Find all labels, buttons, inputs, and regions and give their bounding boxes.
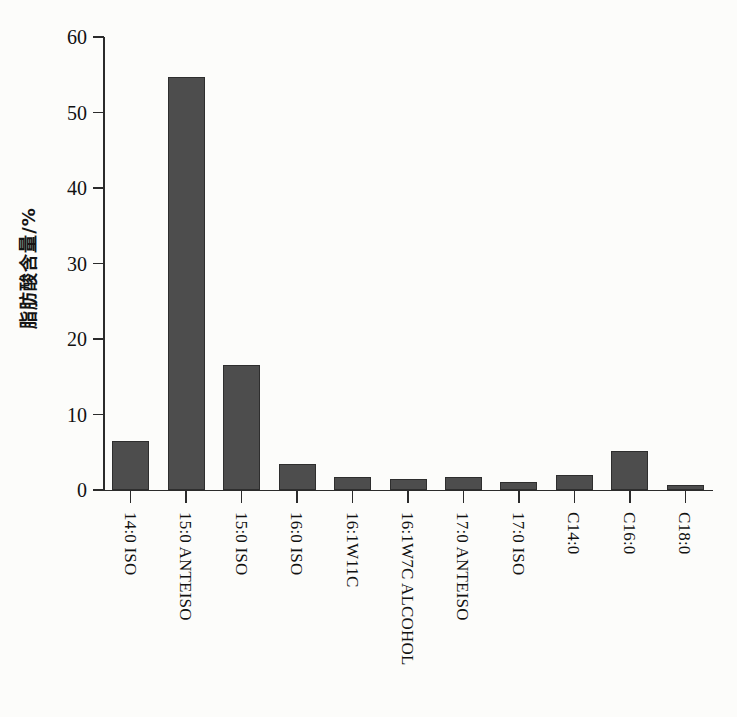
y-tick-mark [93,36,104,37]
x-tick-mark [185,490,186,503]
x-tick-label: 15:0 ISO [233,512,250,575]
x-tick-mark [407,490,408,503]
y-tick-label: 50 [43,103,87,123]
x-tick-mark [352,490,353,503]
bar [556,475,593,490]
x-tick-label: 16:0 ISO [288,512,305,575]
x-tick-label: C14:0 [565,512,582,555]
x-tick-mark [518,490,519,503]
x-tick-label: 14:0 ISO [122,512,139,575]
y-tick-label-text: 10 [47,405,87,425]
bar [112,441,149,490]
x-tick-label: 16:1W7C ALCOHOL [399,512,416,666]
y-tick-label-text: 50 [47,103,87,123]
y-tick-label-text: 60 [47,27,87,47]
y-axis-title: 脂肪酸含量/% [14,168,40,368]
y-tick-label: 0 [43,480,87,500]
y-tick-mark [93,414,104,415]
x-tick-label: 17:0 ISO [510,512,527,575]
x-tick-label: 17:0 ANTEISO [454,512,471,621]
bar [279,464,316,490]
bar [223,365,260,490]
bar-chart: 脂肪酸含量/% 0102030405060 14:0 ISO15:0 ANTEI… [0,0,737,717]
y-tick-label-text: 0 [47,480,87,500]
x-tick-mark [463,490,464,503]
y-tick-label-text: 40 [47,178,87,198]
y-tick-label: 30 [43,254,87,274]
y-tick-label-text: 30 [47,254,87,274]
y-tick-mark [93,187,104,188]
bar [334,477,371,490]
x-tick-mark [629,490,630,503]
bar [445,477,482,490]
bar [611,451,648,490]
bar [390,479,427,490]
y-tick-label: 10 [43,405,87,425]
x-tick-label: C18:0 [676,512,693,555]
y-tick-label: 60 [43,27,87,47]
x-tick-mark [241,490,242,503]
x-tick-mark [130,490,131,503]
x-tick-mark [685,490,686,503]
y-tick-label: 40 [43,178,87,198]
y-tick-mark [93,112,104,113]
y-tick-mark [93,489,104,490]
y-tick-label: 20 [43,329,87,349]
x-tick-label: 15:0 ANTEISO [177,512,194,621]
x-tick-mark [296,490,297,503]
bar [500,482,537,490]
y-tick-mark [93,338,104,339]
x-tick-mark [574,490,575,503]
x-tick-label: 16:1W11C [344,512,361,588]
y-tick-mark [93,263,104,264]
x-tick-label: C16:0 [621,512,638,555]
y-tick-label-text: 20 [47,329,87,349]
bar [168,77,205,490]
